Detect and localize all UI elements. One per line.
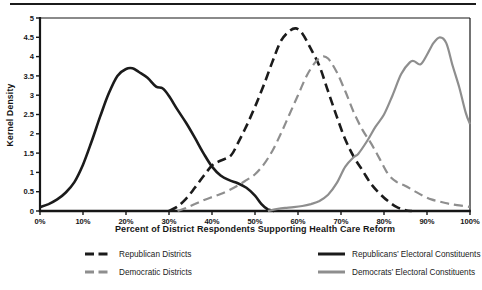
y-tick-label: 2.5 xyxy=(23,110,34,119)
y-tick-label: 4 xyxy=(30,52,35,61)
figure-page: 00.511.522.533.544.550%10%20%30%40%50%60… xyxy=(0,0,482,290)
legend-item-republican-districts: Republican Districts xyxy=(85,249,191,259)
y-tick-label: 5 xyxy=(30,14,35,23)
y-axis-title: Kernel Density xyxy=(5,65,15,165)
democratic-districts-curve xyxy=(178,56,470,211)
y-tick-label: 3 xyxy=(30,91,34,100)
y-tick-label: 4.5 xyxy=(23,33,34,42)
legend-label: Democratic Districts xyxy=(119,268,192,277)
dashed-line-swatch-black xyxy=(85,250,112,258)
legend-item-democrats-electoral-constituents: Democrats’ Electoral Constituents xyxy=(318,267,475,277)
x-axis-title: Percent of District Respondents Supporti… xyxy=(40,224,470,234)
y-tick-label: 0 xyxy=(30,207,34,216)
legend-label: Democrats’ Electoral Constituents xyxy=(352,268,475,277)
democrats-electoral-constituents-curve xyxy=(268,37,470,211)
y-tick-label: 0.5 xyxy=(23,187,34,196)
solid-line-swatch-black xyxy=(318,250,345,258)
solid-line-swatch-gray xyxy=(318,268,345,276)
legend-label: Republicans’ Electoral Constituents xyxy=(352,250,481,259)
y-tick-label: 2 xyxy=(30,129,34,138)
y-tick-label: 1 xyxy=(30,168,35,177)
y-tick-label: 3.5 xyxy=(23,72,34,81)
legend-item-democratic-districts: Democratic Districts xyxy=(85,267,192,277)
kernel-density-plot: 00.511.522.533.544.550%10%20%30%40%50%60… xyxy=(0,0,482,245)
legend-item-republicans-electoral-constituents: Republicans’ Electoral Constituents xyxy=(318,249,481,259)
y-tick-label: 1.5 xyxy=(23,149,34,158)
legend-label: Republican Districts xyxy=(119,250,191,259)
dashed-line-swatch-gray xyxy=(85,268,112,276)
republican-districts-curve xyxy=(169,28,412,211)
